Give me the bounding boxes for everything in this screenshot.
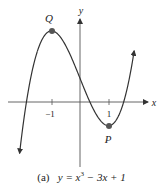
caption-rest: − 3x + 1 bbox=[84, 171, 126, 183]
cubic-graph: Q P y x −1 1 bbox=[0, 0, 163, 188]
point-q-max bbox=[49, 28, 55, 34]
figure-caption: (a) y = x3 − 3x + 1 bbox=[0, 170, 163, 183]
label-q: Q bbox=[45, 12, 53, 24]
tick-label-neg1: −1 bbox=[45, 109, 55, 119]
axis-y-label: y bbox=[78, 5, 84, 16]
point-p-min bbox=[106, 123, 112, 129]
caption-prefix: (a) bbox=[37, 171, 49, 183]
axis-x-label: x bbox=[151, 97, 157, 108]
caption-eq: = x bbox=[63, 171, 81, 183]
label-p: P bbox=[104, 133, 112, 145]
tick-label-pos1: 1 bbox=[107, 109, 112, 119]
cubic-curve-left-arrow bbox=[20, 52, 38, 154]
